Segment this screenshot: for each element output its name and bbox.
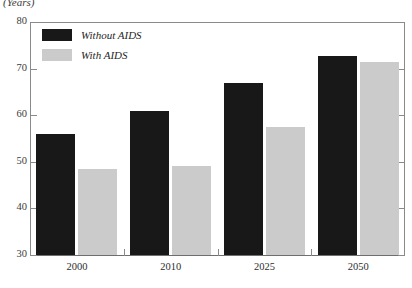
x-axis-label-2010: 2010 [131,261,211,272]
legend-item: With AIDS [42,46,142,63]
x-axis-label-2025: 2025 [224,261,304,272]
y-tick-70 [30,69,37,70]
y-tick-right-70 [398,69,405,70]
y-axis-label-30: 30 [0,248,27,259]
bar-2050-with-aids [360,62,399,255]
y-axis-label-40: 40 [0,201,27,212]
legend-label-with-aids: With AIDS [81,49,128,61]
y-tick-right-50 [398,162,405,163]
legend-label-without-aids: Without AIDS [81,29,142,41]
y-axis-unit-caption: (Years) [3,0,34,8]
y-tick-80 [30,22,37,23]
x-tick-divider [124,249,125,256]
bar-2025-with-aids [266,127,305,255]
x-axis-label-2000: 2000 [37,261,117,272]
x-tick-divider [218,249,219,256]
bar-2000-with-aids [78,169,117,255]
legend-swatch-without-aids [42,29,72,41]
y-axis-label-60: 60 [0,108,27,119]
y-tick-60 [30,115,37,116]
bar-2010-without-aids [130,111,169,255]
x-axis-label-2050: 2050 [318,261,398,272]
bar-2025-without-aids [224,83,263,255]
legend-swatch-with-aids [42,49,72,61]
y-axis-label-80: 80 [0,15,27,26]
y-axis-label-50: 50 [0,155,27,166]
life-expectancy-bar-chart: (Years) 807060504030 2000201020252050 Wi… [0,0,412,288]
y-tick-right-60 [398,115,405,116]
bar-2050-without-aids [318,56,357,255]
y-axis-label-70: 70 [0,62,27,73]
bar-2010-with-aids [172,166,211,255]
legend-item: Without AIDS [42,26,142,43]
y-tick-30 [30,255,37,256]
y-tick-right-80 [398,22,405,23]
chart-legend: Without AIDS With AIDS [42,26,142,66]
bar-2000-without-aids [36,134,75,255]
y-tick-right-40 [398,208,405,209]
x-tick-divider [311,249,312,256]
y-tick-right-30 [398,255,405,256]
